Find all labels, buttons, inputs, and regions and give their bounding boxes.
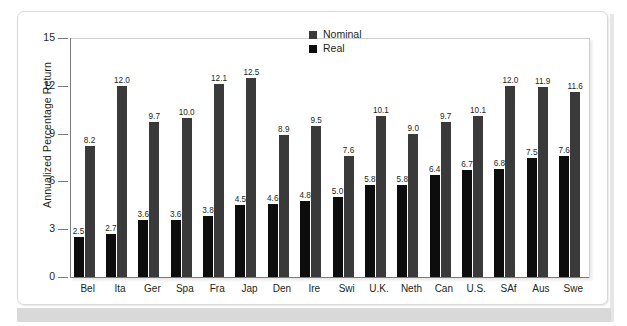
bar-real[interactable]: 3.8 (203, 216, 213, 277)
legend-item[interactable]: Real (309, 43, 362, 54)
bar-value-label: 9.5 (305, 116, 327, 125)
bar-real[interactable]: 2.7 (106, 234, 116, 277)
bar-value-label: 8.2 (79, 136, 101, 145)
bar-group: 6.812.0 (494, 38, 522, 277)
bar-nominal[interactable]: 10.1 (473, 116, 483, 277)
bar-nominal[interactable]: 12.0 (117, 86, 127, 277)
plot-area: 2.58.22.712.03.69.73.610.03.812.14.512.5… (70, 38, 588, 277)
y-tick-label: 6 (17, 174, 55, 186)
bar-real[interactable]: 7.6 (559, 156, 569, 277)
bar-nominal[interactable]: 7.6 (344, 156, 354, 277)
bar-nominal[interactable]: 8.2 (85, 146, 95, 277)
legend-swatch-icon (309, 31, 317, 39)
bar-group: 5.07.6 (333, 38, 361, 277)
bar-value-label: 12.0 (111, 76, 133, 85)
bar-value-label: 12.5 (240, 68, 262, 77)
bar-nominal[interactable]: 9.5 (311, 126, 321, 277)
y-tick-label: 15 (17, 31, 55, 43)
bar-group: 3.812.1 (203, 38, 231, 277)
bar-value-label: 11.6 (564, 82, 586, 91)
legend-item[interactable]: Nominal (309, 29, 362, 40)
y-tick-mark (58, 86, 68, 87)
bar-real[interactable]: 4.8 (300, 201, 310, 277)
bar-real[interactable]: 3.6 (171, 220, 181, 277)
bar-nominal[interactable]: 11.6 (570, 92, 580, 277)
bar-group: 2.58.2 (74, 38, 102, 277)
bar-nominal[interactable]: 11.9 (538, 87, 548, 277)
bar-group: 6.49.7 (430, 38, 458, 277)
y-tick-label: 9 (17, 127, 55, 139)
bar-group: 4.68.9 (268, 38, 296, 277)
bar-value-label: 10.0 (176, 108, 198, 117)
bar-value-label: 11.9 (532, 77, 554, 86)
bar-real[interactable]: 5.0 (333, 197, 343, 277)
bar-value-label: 10.1 (467, 106, 489, 115)
bar-group: 7.511.9 (527, 38, 555, 277)
bar-nominal[interactable]: 12.1 (214, 84, 224, 277)
bar-nominal[interactable]: 8.9 (279, 135, 289, 277)
y-tick-mark (58, 134, 68, 135)
bar-group: 3.610.0 (171, 38, 199, 277)
bar-nominal[interactable]: 9.7 (149, 122, 159, 277)
footer-band (17, 308, 611, 322)
y-tick-label: 12 (17, 79, 55, 91)
bar-value-label: 7.6 (338, 146, 360, 155)
bar-value-label: 9.7 (143, 112, 165, 121)
bar-group: 5.810.1 (365, 38, 393, 277)
bar-value-label: 8.9 (273, 125, 295, 134)
bar-real[interactable]: 3.6 (138, 220, 148, 277)
legend-label: Real (323, 43, 345, 54)
bar-real[interactable]: 5.8 (365, 185, 375, 277)
bar-real[interactable]: 6.8 (494, 169, 504, 277)
y-tick-mark (58, 229, 68, 230)
y-tick-mark (58, 181, 68, 182)
bar-group: 4.512.5 (235, 38, 263, 277)
bar-group: 5.89.0 (397, 38, 425, 277)
bar-value-label: 9.0 (402, 124, 424, 133)
chart-legend: NominalReal (309, 29, 362, 57)
bar-nominal[interactable]: 9.0 (408, 134, 418, 277)
bar-group: 4.89.5 (300, 38, 328, 277)
legend-swatch-icon (309, 45, 317, 53)
x-axis-line (70, 277, 589, 278)
bar-nominal[interactable]: 12.5 (246, 78, 256, 277)
y-tick-label: 0 (17, 270, 55, 282)
bar-real[interactable]: 4.5 (235, 205, 245, 277)
bar-nominal[interactable]: 10.0 (182, 118, 192, 277)
bar-value-label: 12.0 (499, 76, 521, 85)
bar-value-label: 12.1 (208, 74, 230, 83)
bar-real[interactable]: 2.5 (74, 237, 84, 277)
bar-value-label: 9.7 (435, 112, 457, 121)
bar-real[interactable]: 6.4 (430, 175, 440, 277)
bar-group: 7.611.6 (559, 38, 587, 277)
y-tick-mark (58, 277, 68, 278)
bar-group: 6.710.1 (462, 38, 490, 277)
bar-real[interactable]: 6.7 (462, 170, 472, 277)
page-shadow (610, 14, 614, 322)
bar-group: 3.69.7 (138, 38, 166, 277)
legend-label: Nominal (323, 29, 362, 40)
bar-real[interactable]: 5.8 (397, 185, 407, 277)
bar-nominal[interactable]: 9.7 (441, 122, 451, 277)
bar-nominal[interactable]: 12.0 (505, 86, 515, 277)
x-tick-label: Swe (550, 283, 596, 294)
bar-real[interactable]: 7.5 (527, 158, 537, 278)
y-tick-mark (58, 38, 68, 39)
bar-real[interactable]: 4.6 (268, 204, 278, 277)
bar-value-label: 10.1 (370, 106, 392, 115)
bar-chart: Annualized Percentage Return 03691215 2.… (17, 11, 608, 305)
bar-group: 2.712.0 (106, 38, 134, 277)
y-tick-label: 3 (17, 222, 55, 234)
bar-nominal[interactable]: 10.1 (376, 116, 386, 277)
